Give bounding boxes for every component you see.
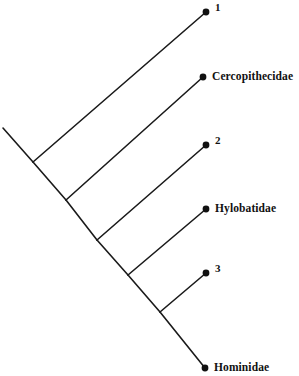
tree-branch [33, 12, 206, 162]
tip-dot-layer [200, 9, 210, 372]
tip-label-3: 3 [215, 263, 221, 274]
tip-node-dot [200, 74, 207, 81]
tree-branch [97, 145, 206, 240]
tree-branch [33, 162, 66, 200]
tip-label-cercopithecidae: Cercopithecidae [212, 71, 293, 83]
tree-branch [128, 275, 160, 312]
tree-branch [160, 312, 205, 368]
tip-label-1: 1 [215, 2, 221, 13]
tip-node-dot [202, 365, 209, 372]
tree-branch [97, 240, 128, 275]
tip-node-dot [203, 142, 210, 149]
tip-node-dot [203, 9, 210, 16]
tip-node-dot [203, 270, 210, 277]
branch-layer [3, 12, 206, 368]
tip-node-dot [203, 206, 210, 213]
tip-label-hominidae: Hominidae [214, 362, 269, 374]
tree-branch [66, 200, 97, 240]
tree-branch [128, 209, 206, 275]
tip-label-hylobatidae: Hylobatidae [215, 203, 276, 215]
phylogenetic-tree-figure: 1Cercopithecidae2Hylobatidae3Hominidae [0, 0, 299, 376]
tree-diagram-canvas [0, 0, 299, 376]
tree-branch [160, 273, 206, 312]
tip-label-2: 2 [215, 135, 221, 146]
tree-branch [3, 128, 33, 162]
tree-branch [66, 77, 203, 200]
